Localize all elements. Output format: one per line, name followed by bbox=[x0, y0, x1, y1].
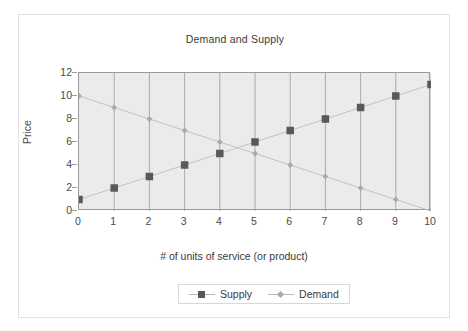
x-tick-label: 5 bbox=[239, 216, 269, 227]
y-tick-mark bbox=[72, 95, 77, 96]
data-point-supply bbox=[181, 161, 189, 169]
x-tick-label: 4 bbox=[204, 216, 234, 227]
y-tick-mark bbox=[72, 164, 77, 165]
y-tick-mark bbox=[72, 141, 77, 142]
y-tick-mark bbox=[72, 210, 77, 211]
y-tick-label: 12 bbox=[40, 67, 72, 78]
data-point-supply bbox=[392, 92, 400, 100]
data-point-supply bbox=[79, 196, 83, 204]
y-tick-mark bbox=[72, 118, 77, 119]
data-point-supply bbox=[146, 173, 154, 181]
data-point-supply bbox=[357, 104, 365, 112]
legend-label-supply: Supply bbox=[220, 288, 252, 300]
y-tick-mark bbox=[72, 187, 77, 188]
data-point-demand bbox=[393, 197, 399, 203]
data-point-supply bbox=[251, 138, 259, 146]
x-tick-label: 3 bbox=[169, 216, 199, 227]
x-tick-label: 2 bbox=[133, 216, 163, 227]
y-tick-label: 2 bbox=[40, 182, 72, 193]
x-tick-label: 1 bbox=[98, 216, 128, 227]
data-point-demand bbox=[252, 151, 258, 157]
x-tick-label: 0 bbox=[63, 216, 93, 227]
plot-svg bbox=[79, 73, 431, 211]
y-tick-label: 10 bbox=[40, 90, 72, 101]
data-point-demand bbox=[287, 162, 293, 168]
data-point-supply bbox=[322, 115, 330, 123]
x-tick-label: 6 bbox=[274, 216, 304, 227]
data-point-demand bbox=[217, 139, 223, 145]
y-tick-label: 8 bbox=[40, 113, 72, 124]
x-tick-label: 7 bbox=[309, 216, 339, 227]
x-tick-label: 8 bbox=[345, 216, 375, 227]
x-tick-label: 10 bbox=[415, 216, 445, 227]
x-axis-tick-labels: 012345678910 bbox=[78, 216, 430, 232]
plot-area bbox=[78, 72, 430, 210]
y-tick-label: 6 bbox=[40, 136, 72, 147]
y-tick-label: 0 bbox=[40, 205, 72, 216]
data-point-demand bbox=[323, 174, 329, 180]
chart-title: Demand and Supply bbox=[19, 33, 451, 45]
data-point-supply bbox=[216, 150, 224, 158]
y-tick-mark bbox=[72, 72, 77, 73]
x-tick-label: 9 bbox=[380, 216, 410, 227]
legend-item-supply[interactable]: Supply bbox=[189, 288, 252, 300]
data-point-demand bbox=[428, 208, 431, 211]
x-axis-title: # of units of service (or product) bbox=[18, 250, 450, 262]
legend-item-demand[interactable]: Demand bbox=[268, 288, 339, 300]
supply-marker-icon bbox=[189, 289, 215, 300]
data-point-demand bbox=[111, 105, 117, 111]
legend-label-demand: Demand bbox=[299, 288, 339, 300]
data-point-supply bbox=[427, 81, 431, 89]
data-point-supply bbox=[110, 184, 118, 192]
data-point-demand bbox=[358, 185, 364, 191]
data-point-demand bbox=[147, 116, 153, 122]
y-axis-title: Price bbox=[21, 102, 33, 162]
y-axis-tick-labels: 024681012 bbox=[40, 64, 72, 218]
data-point-demand bbox=[182, 128, 188, 134]
chart-legend: Supply Demand bbox=[178, 284, 350, 304]
data-point-demand bbox=[79, 93, 82, 99]
data-point-supply bbox=[286, 127, 294, 135]
demand-marker-icon bbox=[268, 289, 294, 300]
y-tick-label: 4 bbox=[40, 159, 72, 170]
